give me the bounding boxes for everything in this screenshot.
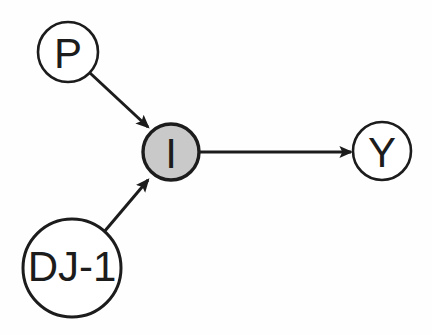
pathway-diagram: P I DJ-1 Y: [0, 0, 432, 335]
node-group: P I DJ-1 Y: [23, 22, 411, 317]
edge-p-to-i: [90, 73, 148, 127]
node-i[interactable]: I: [143, 124, 199, 180]
diagram-canvas: P I DJ-1 Y: [0, 0, 432, 335]
node-y-label: Y: [368, 129, 396, 176]
edge-group: [90, 73, 351, 232]
node-y[interactable]: Y: [353, 122, 411, 180]
node-p-label: P: [54, 30, 82, 77]
edge-dj1-to-i: [104, 180, 148, 232]
node-dj1[interactable]: DJ-1: [23, 219, 121, 317]
node-dj1-label: DJ-1: [28, 243, 117, 290]
node-p[interactable]: P: [38, 22, 98, 82]
node-i-label: I: [165, 130, 177, 177]
